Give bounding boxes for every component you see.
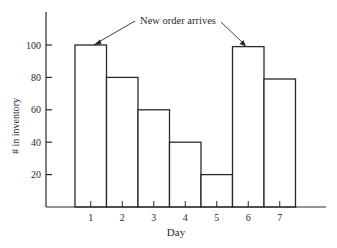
bar-day-3	[138, 110, 170, 207]
bars	[75, 45, 296, 207]
x-tick-label: 4	[183, 212, 188, 223]
x-tick-label: 1	[88, 212, 93, 223]
bar-day-1	[75, 45, 107, 207]
x-tick-label: 3	[151, 212, 156, 223]
y-tick-label: 100	[26, 40, 41, 51]
inventory-bar-chart: 20406080100 1234567 Day # in inventory N…	[0, 0, 337, 248]
y-tick-label: 20	[31, 169, 41, 180]
x-tick-label: 5	[214, 212, 219, 223]
y-tick-label: 40	[31, 137, 41, 148]
x-tick-label: 6	[246, 212, 251, 223]
bar-day-6	[233, 47, 265, 207]
x-tick-label: 7	[277, 212, 282, 223]
y-axis-label: # in inventory	[10, 98, 21, 154]
bar-day-2	[107, 77, 139, 207]
bar-day-4	[170, 142, 202, 207]
x-axis-label: Day	[167, 226, 186, 238]
annotation-arrow-left	[97, 21, 135, 43]
annotation: New order arrives	[93, 15, 246, 47]
annotation-text: New order arrives	[140, 15, 216, 26]
annotation-arrow-right	[221, 22, 243, 43]
y-tick-label: 60	[31, 104, 41, 115]
bar-day-7	[264, 79, 296, 207]
x-tick-label: 2	[120, 212, 125, 223]
y-tick-label: 80	[31, 72, 41, 83]
y-ticks: 20406080100	[26, 40, 52, 181]
